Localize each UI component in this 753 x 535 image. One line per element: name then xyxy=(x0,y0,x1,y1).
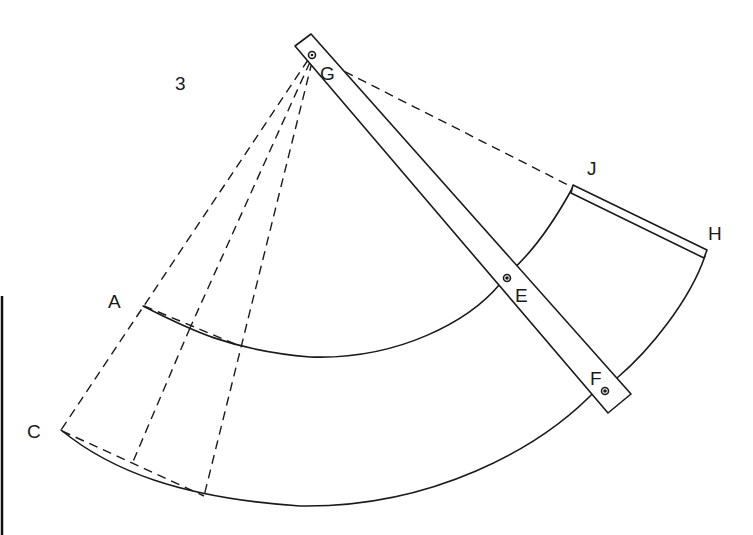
label-G: G xyxy=(320,63,335,84)
chord-dashed-lines xyxy=(62,306,240,496)
radial-line-G-mid2 xyxy=(132,328,190,464)
label-F: F xyxy=(590,368,602,389)
end-band xyxy=(571,185,707,258)
outer-arc xyxy=(61,388,598,506)
pin-F-dot xyxy=(603,389,607,393)
inner-arc xyxy=(143,284,500,357)
label-J: J xyxy=(587,158,597,179)
chord-inner xyxy=(144,306,240,346)
right-arc xyxy=(617,256,705,378)
construction-diagram: 3 G J H E F A C xyxy=(0,0,753,535)
figure-number: 3 xyxy=(175,73,186,94)
radial-line-G-C xyxy=(61,60,308,430)
upper-arc xyxy=(510,187,573,272)
radial-line-G-mid xyxy=(190,62,310,328)
label-H: H xyxy=(708,223,722,244)
label-A: A xyxy=(108,291,121,312)
chord-outer xyxy=(62,431,204,496)
label-E: E xyxy=(515,285,528,306)
pin-G-dot xyxy=(311,54,314,57)
radial-line-G-right xyxy=(204,62,312,496)
label-C: C xyxy=(27,421,41,442)
pin-E-dot xyxy=(505,276,509,280)
line-G-J xyxy=(318,58,572,187)
end-band-strip xyxy=(571,185,707,258)
